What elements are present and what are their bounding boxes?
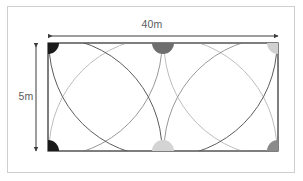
sprinkler-top-left (37, 32, 59, 54)
sprinkler-bottom-left (37, 140, 59, 162)
sprinkler-top-center (152, 32, 174, 54)
height-dimension-label: 5m (19, 91, 34, 102)
sprinkler-top-right (267, 32, 289, 54)
sprinkler-bottom-right (267, 140, 289, 162)
sprinkler-bottom-center (152, 140, 174, 162)
field-rectangle (48, 43, 278, 151)
width-dimension-label: 40m (141, 19, 162, 30)
figure-canvas: 40m 5m (0, 0, 303, 181)
